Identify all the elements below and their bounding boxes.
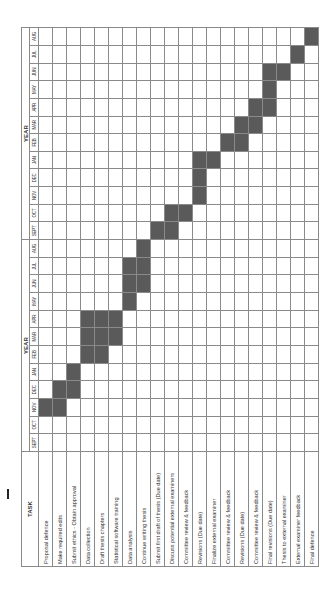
month-header: AUG — [30, 240, 39, 258]
gantt-empty-cell — [207, 187, 221, 205]
gantt-empty-cell — [235, 28, 249, 46]
month-header: JUN — [30, 275, 39, 293]
gantt-empty-cell — [277, 381, 291, 399]
gantt-empty-cell — [305, 134, 319, 152]
gantt-empty-cell — [249, 293, 263, 311]
gantt-empty-cell — [109, 28, 123, 46]
gantt-empty-cell — [39, 363, 53, 381]
task-label: External examiner feedback — [291, 452, 305, 567]
gantt-bar-cell — [123, 257, 137, 275]
gantt-empty-cell — [179, 381, 193, 399]
gantt-bar-cell — [193, 151, 207, 169]
gantt-empty-cell — [53, 204, 67, 222]
gantt-empty-cell — [263, 151, 277, 169]
gantt-empty-cell — [123, 151, 137, 169]
gantt-empty-cell — [109, 346, 123, 364]
month-header: DEC — [30, 169, 39, 187]
gantt-empty-cell — [109, 134, 123, 152]
gantt-empty-cell — [249, 169, 263, 187]
gantt-empty-cell — [207, 328, 221, 346]
gantt-empty-cell — [277, 275, 291, 293]
gantt-empty-cell — [137, 151, 151, 169]
gantt-table: TASK YEAR YEAR SEPTOCTNOVDECJANFEBMARAPR… — [21, 27, 319, 567]
gantt-empty-cell — [53, 222, 67, 240]
table-row: Final revisions (Due date) — [263, 28, 277, 567]
gantt-empty-cell — [95, 257, 109, 275]
gantt-empty-cell — [109, 116, 123, 134]
gantt-empty-cell — [305, 169, 319, 187]
month-header: FEB — [30, 134, 39, 152]
gantt-empty-cell — [305, 45, 319, 63]
task-column-header: TASK — [22, 452, 39, 567]
gantt-empty-cell — [53, 310, 67, 328]
gantt-empty-cell — [277, 240, 291, 258]
gantt-empty-cell — [67, 116, 81, 134]
gantt-empty-cell — [291, 169, 305, 187]
table-row: Make required edits — [53, 28, 67, 567]
gantt-empty-cell — [263, 293, 277, 311]
gantt-empty-cell — [263, 116, 277, 134]
task-label: Statistical software training — [109, 452, 123, 567]
gantt-empty-cell — [263, 257, 277, 275]
gantt-bar-cell — [151, 222, 165, 240]
gantt-empty-cell — [39, 222, 53, 240]
gantt-empty-cell — [263, 416, 277, 434]
gantt-bar-cell — [81, 346, 95, 364]
gantt-empty-cell — [151, 346, 165, 364]
table-row: External examiner feedback — [291, 28, 305, 567]
gantt-empty-cell — [95, 222, 109, 240]
gantt-empty-cell — [123, 310, 137, 328]
gantt-empty-cell — [95, 293, 109, 311]
gantt-empty-cell — [165, 381, 179, 399]
month-header: DEC — [30, 381, 39, 399]
month-header: FEB — [30, 346, 39, 364]
table-row: Committee review & feedback — [179, 28, 193, 567]
gantt-empty-cell — [53, 134, 67, 152]
gantt-empty-cell — [109, 275, 123, 293]
gantt-empty-cell — [67, 310, 81, 328]
gantt-empty-cell — [291, 416, 305, 434]
gantt-empty-cell — [291, 151, 305, 169]
gantt-empty-cell — [165, 363, 179, 381]
gantt-empty-cell — [207, 381, 221, 399]
gantt-empty-cell — [193, 310, 207, 328]
gantt-empty-cell — [109, 81, 123, 99]
gantt-empty-cell — [263, 399, 277, 417]
gantt-bar-cell — [67, 363, 81, 381]
gantt-empty-cell — [39, 346, 53, 364]
gantt-empty-cell — [249, 240, 263, 258]
gantt-empty-cell — [221, 151, 235, 169]
table-row: Committee review & feedback — [221, 28, 235, 567]
month-header: SEPT — [30, 222, 39, 240]
gantt-empty-cell — [305, 434, 319, 452]
gantt-empty-cell — [95, 416, 109, 434]
gantt-empty-cell — [53, 346, 67, 364]
gantt-empty-cell — [221, 81, 235, 99]
month-header: SEPT — [30, 434, 39, 452]
gantt-empty-cell — [165, 81, 179, 99]
gantt-empty-cell — [193, 204, 207, 222]
gantt-empty-cell — [95, 169, 109, 187]
gantt-empty-cell — [179, 134, 193, 152]
gantt-empty-cell — [291, 381, 305, 399]
gantt-empty-cell — [151, 328, 165, 346]
gantt-bar-cell — [123, 293, 137, 311]
gantt-empty-cell — [249, 363, 263, 381]
table-row: Committee review & feedback — [249, 28, 263, 567]
table-row: Statistical software training — [109, 28, 123, 567]
gantt-empty-cell — [249, 151, 263, 169]
gantt-bar-cell — [123, 275, 137, 293]
gantt-empty-cell — [137, 63, 151, 81]
gantt-bar-cell — [291, 45, 305, 63]
gantt-empty-cell — [151, 416, 165, 434]
gantt-empty-cell — [151, 293, 165, 311]
gantt-empty-cell — [67, 416, 81, 434]
gantt-empty-cell — [137, 98, 151, 116]
gantt-bar-cell — [81, 328, 95, 346]
gantt-empty-cell — [165, 134, 179, 152]
gantt-empty-cell — [95, 399, 109, 417]
task-label: Revisions (Due date) — [193, 452, 207, 567]
gantt-empty-cell — [221, 381, 235, 399]
gantt-empty-cell — [151, 240, 165, 258]
gantt-bar-cell — [249, 98, 263, 116]
